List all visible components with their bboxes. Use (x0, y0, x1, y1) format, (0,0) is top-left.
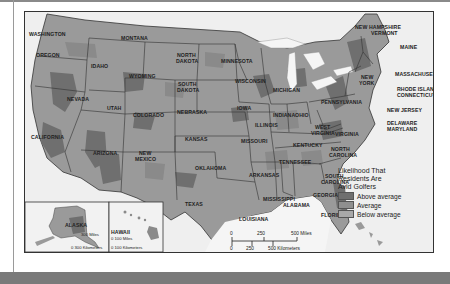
state-label-montana: MONTANA (121, 35, 148, 41)
scale-miles-0: 0 (230, 231, 233, 236)
state-label-north-dakota-2: DAKOTA (176, 58, 198, 64)
scale-km-250: 250 (246, 246, 254, 251)
state-label-oregon: OREGON (36, 52, 60, 58)
state-label-oklahoma: OKLAHOMA (195, 165, 226, 171)
state-label-missouri: MISSOURI (241, 138, 267, 144)
state-label-illinois: ILLINOIS (255, 122, 278, 128)
state-label-minnesota: MINNESOTA (221, 58, 253, 64)
state-label-hawaii: HAWAII (111, 229, 130, 235)
state-label-maine: MAINE (400, 44, 417, 50)
legend-swatch-above-average (338, 192, 354, 200)
state-label-michigan: MICHIGAN (273, 87, 300, 93)
map-legend: Likelihood That Residents Are Avid Golfe… (338, 167, 428, 218)
state-label-kentucky: KENTUCKY (293, 142, 323, 148)
state-label-new-mexico-2: MEXICO (135, 156, 156, 162)
left-margin-rule (13, 0, 14, 272)
scale-miles-250: 250 (257, 231, 265, 236)
legend-title-line-2: Residents Are (338, 175, 428, 183)
legend-title-line-1: Likelihood That (338, 167, 428, 175)
state-label-maryland: MARYLAND (387, 126, 417, 132)
state-label-georgia: GEORGIA (313, 192, 338, 198)
state-label-massachusetts: MASSACHUSETTS (395, 71, 434, 77)
state-label-north-carolina-2: CAROLINA (329, 152, 357, 158)
state-label-virginia: VIRGINIA (335, 131, 359, 137)
state-label-arkansas: ARKANSAS (249, 172, 279, 178)
scale-km-0: 0 (230, 246, 233, 251)
alaska-scale-km: 0 300 Kilometers (71, 245, 102, 250)
state-label-connecticut: CONNECTICUT (397, 92, 434, 98)
state-label-louisiana: LOUISIANA (239, 216, 268, 222)
state-label-utah: UTAH (107, 105, 121, 111)
state-label-tennessee: TENNESSEE (279, 159, 311, 165)
state-label-california: CALIFORNIA (31, 134, 64, 140)
bottom-divider-bar (0, 272, 450, 284)
legend-label-average: Average (357, 202, 381, 209)
legend-title-line-3: Avid Golfers (338, 183, 428, 191)
state-label-idaho: IDAHO (91, 63, 108, 69)
alaska-scale-miles: 300 Miles (81, 232, 99, 237)
hawaii-scale-km: 0 100 Kilometers (111, 245, 142, 250)
state-label-kansas: KANSAS (185, 136, 208, 142)
state-label-new-york-2: YORK (359, 80, 374, 86)
state-label-alabama: ALABAMA (283, 202, 310, 208)
state-label-indiana: INDIANA (273, 112, 295, 118)
state-label-iowa: IOWA (237, 105, 251, 111)
state-label-wyoming: WYOMING (129, 73, 156, 79)
state-label-colorado: COLORADO (133, 112, 164, 118)
state-label-south-dakota-2: DAKOTA (177, 87, 199, 93)
state-label-ohio: OHIO (295, 112, 309, 118)
legend-swatch-below-average (338, 210, 354, 218)
scale-miles-500: 500 Miles (291, 231, 312, 236)
scale-km-500: 500 Kilometers (268, 246, 300, 251)
legend-item-above-average: Above average (338, 192, 428, 200)
hawaii-scale-miles: 0 100 Miles (111, 236, 132, 241)
state-label-wisconsin: WISCONSIN (235, 78, 266, 84)
state-label-arizona: ARIZONA (93, 150, 117, 156)
legend-label-above-average: Above average (357, 193, 401, 200)
state-label-west-virginia-2: VIRGINIA (311, 130, 335, 136)
state-label-nevada: NEVADA (67, 96, 89, 102)
state-label-vermont: VERMONT (371, 30, 398, 36)
state-label-alaska: ALASKA (65, 222, 87, 228)
state-label-texas: TEXAS (185, 201, 203, 207)
legend-item-below-average: Below average (338, 210, 428, 218)
state-label-new-jersey: NEW JERSEY (387, 107, 422, 113)
state-label-nebraska: NEBRASKA (177, 109, 207, 115)
legend-label-below-average: Below average (357, 211, 401, 218)
top-divider (0, 0, 450, 2)
state-label-washington: WASHINGTON (29, 31, 66, 37)
legend-swatch-average (338, 201, 354, 209)
state-label-pennsylvania: PENNSYLVANIA (321, 99, 362, 105)
legend-item-average: Average (338, 201, 428, 209)
